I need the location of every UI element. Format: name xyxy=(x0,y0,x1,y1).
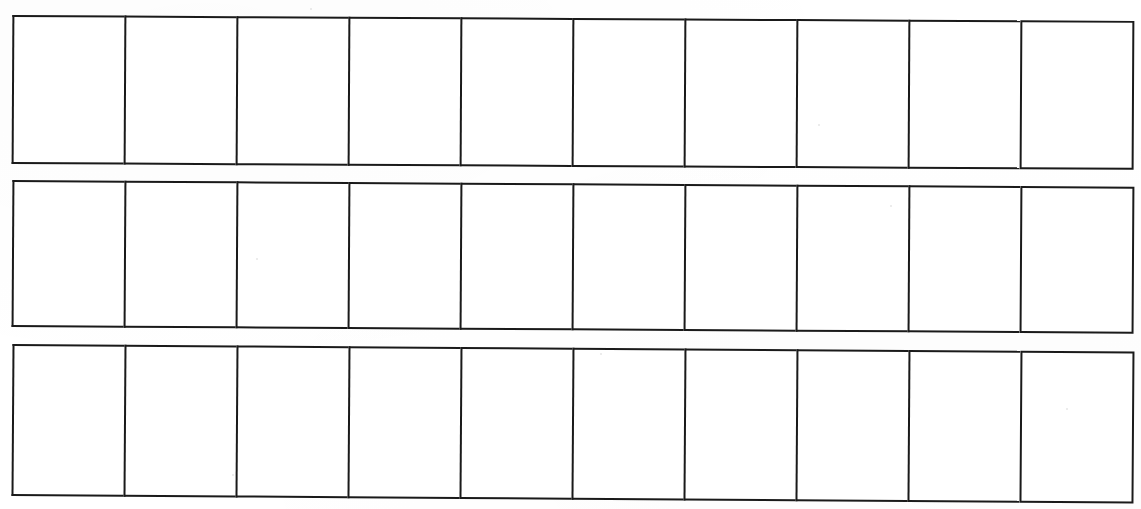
grid-cell[interactable] xyxy=(460,17,573,167)
grid-cell[interactable] xyxy=(908,20,1021,170)
grid-cell[interactable] xyxy=(796,19,909,169)
grid-row xyxy=(12,15,1135,170)
grid-cell[interactable] xyxy=(11,344,124,497)
grid-cell[interactable] xyxy=(684,184,797,332)
grid-cell[interactable] xyxy=(683,348,796,501)
grid-row xyxy=(11,344,1134,503)
scan-speck xyxy=(310,8,312,10)
grid-row xyxy=(12,180,1135,334)
grid-cell[interactable] xyxy=(236,181,349,329)
grid-cell[interactable] xyxy=(347,346,460,499)
grid-cell[interactable] xyxy=(124,181,237,329)
scanned-page xyxy=(0,0,1141,509)
grid-cell[interactable] xyxy=(572,18,685,168)
grid-cell[interactable] xyxy=(796,185,909,333)
grid-cell[interactable] xyxy=(795,349,908,502)
grid-cell[interactable] xyxy=(684,19,797,169)
grid-cell[interactable] xyxy=(124,16,237,166)
grid-cell[interactable] xyxy=(1019,351,1134,504)
grid-cell[interactable] xyxy=(907,350,1020,503)
grid-cell[interactable] xyxy=(12,180,125,328)
grid-cell[interactable] xyxy=(459,347,572,500)
grid-cell[interactable] xyxy=(572,183,685,331)
grid-cell[interactable] xyxy=(123,345,236,498)
grid-cell[interactable] xyxy=(235,345,348,498)
grid-cell[interactable] xyxy=(1020,186,1135,334)
grid-cell[interactable] xyxy=(571,348,684,501)
grid-cell[interactable] xyxy=(908,185,1021,333)
grid-cell[interactable] xyxy=(12,15,125,165)
grid-cell[interactable] xyxy=(460,183,573,331)
grid-cell[interactable] xyxy=(348,17,461,167)
grid-cell[interactable] xyxy=(348,182,461,330)
grid-cell[interactable] xyxy=(1020,20,1135,170)
grid-cell[interactable] xyxy=(236,16,349,166)
